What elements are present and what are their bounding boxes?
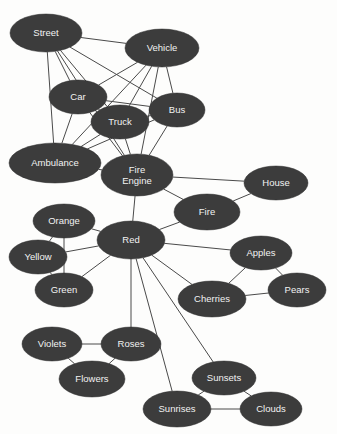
graph-edge <box>133 196 135 221</box>
node-shape[interactable] <box>268 273 326 307</box>
node-shape[interactable] <box>91 105 149 139</box>
graph-node-violets[interactable]: Violets <box>22 327 82 361</box>
graph-node-orange[interactable]: Orange <box>33 204 95 238</box>
graph-edge <box>125 139 130 155</box>
graph-node-vehicle[interactable]: Vehicle <box>125 29 199 67</box>
graph-edge <box>68 358 74 363</box>
node-shape[interactable] <box>101 154 173 196</box>
graph-edge <box>81 38 126 44</box>
graph-edge <box>129 66 151 106</box>
graph-edge <box>159 222 179 229</box>
node-shape[interactable] <box>230 236 292 270</box>
graph-edge <box>198 391 204 395</box>
graph-node-fireengine[interactable]: FireEngine <box>101 154 173 196</box>
node-shape[interactable] <box>9 240 67 274</box>
graph-node-apples[interactable]: Apples <box>230 236 292 270</box>
graph-edge <box>164 243 230 250</box>
node-shape[interactable] <box>143 391 211 427</box>
graph-node-pears[interactable]: Pears <box>268 273 326 307</box>
graph-edge <box>244 391 251 396</box>
node-shape[interactable] <box>174 194 240 230</box>
node-shape[interactable] <box>125 29 199 67</box>
graph-edge <box>229 268 246 284</box>
graph-edge <box>49 237 52 242</box>
graph-node-ambulance[interactable]: Ambulance <box>9 143 101 183</box>
graph-edge <box>245 293 268 295</box>
graph-node-roses[interactable]: Roses <box>101 327 161 361</box>
graph-node-sunsets[interactable]: Sunsets <box>192 361 256 395</box>
graph-node-yellow[interactable]: Yellow <box>9 240 67 274</box>
node-shape[interactable] <box>59 361 125 397</box>
graph-node-clouds[interactable]: Clouds <box>240 392 302 426</box>
graph-edge <box>109 358 115 363</box>
graph-node-sunrises[interactable]: Sunrises <box>143 391 211 427</box>
node-shape[interactable] <box>49 80 107 114</box>
node-shape[interactable] <box>9 143 101 183</box>
graph-node-cherries[interactable]: Cherries <box>178 281 246 317</box>
graph-edge <box>92 229 101 232</box>
network-graph-svg: StreetVehicleCarBusTruckAmbulanceFireEng… <box>0 0 337 434</box>
graph-edge <box>136 259 172 391</box>
node-shape[interactable] <box>244 166 308 200</box>
graph-edge <box>147 116 150 117</box>
node-shape[interactable] <box>33 204 95 238</box>
graph-edge <box>99 62 138 85</box>
node-shape[interactable] <box>192 361 256 395</box>
graph-edge <box>276 268 283 275</box>
graph-edge <box>167 67 173 93</box>
node-shape[interactable] <box>101 327 161 361</box>
graph-node-car[interactable]: Car <box>49 80 107 114</box>
node-shape[interactable] <box>10 14 82 52</box>
graph-edge <box>66 246 99 252</box>
graph-edge <box>82 255 111 276</box>
nodes-layer: StreetVehicleCarBusTruckAmbulanceFireEng… <box>9 14 326 427</box>
graph-node-fire[interactable]: Fire <box>174 194 240 230</box>
node-shape[interactable] <box>240 392 302 426</box>
graph-node-green[interactable]: Green <box>35 273 93 307</box>
graph-edge <box>50 272 52 274</box>
graph-edge <box>62 114 72 144</box>
graph-node-red[interactable]: Red <box>97 221 165 259</box>
graph-edge <box>149 126 167 155</box>
graph-edge <box>173 177 244 181</box>
graph-node-flowers[interactable]: Flowers <box>59 361 125 397</box>
node-shape[interactable] <box>22 327 82 361</box>
node-shape[interactable] <box>178 281 246 317</box>
graph-node-street[interactable]: Street <box>10 14 82 52</box>
graph-node-house[interactable]: House <box>244 166 308 200</box>
graph-node-truck[interactable]: Truck <box>91 105 149 139</box>
network-graph-canvas: StreetVehicleCarBusTruckAmbulanceFireEng… <box>0 0 337 434</box>
graph-edge <box>99 169 102 170</box>
node-shape[interactable] <box>149 93 205 127</box>
graph-edge <box>164 189 184 199</box>
graph-edge <box>233 194 251 201</box>
node-shape[interactable] <box>97 221 165 259</box>
graph-node-bus[interactable]: Bus <box>149 93 205 127</box>
node-shape[interactable] <box>35 273 93 307</box>
